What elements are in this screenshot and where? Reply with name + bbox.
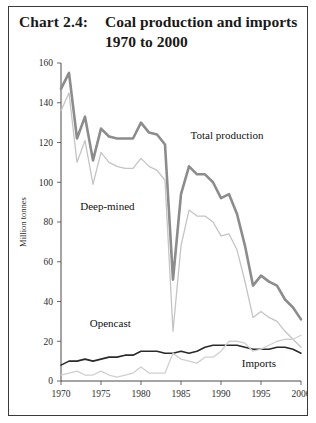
y-axis-ticks: 020406080100120140160 [39, 58, 61, 386]
x-axis-ticks: 1970197519801985199019952000 [52, 381, 309, 399]
x-tick-label: 1995 [252, 389, 271, 399]
annotation-opencast: Opencast [90, 317, 131, 329]
x-tick-label: 1975 [92, 389, 111, 399]
annotation-imports: Imports [242, 357, 276, 369]
chart-title-line-2: 1970 to 2000 [105, 33, 188, 51]
x-tick-label: 1980 [132, 389, 151, 399]
chart-title-line-1: Coal production and imports [105, 13, 297, 31]
annotation-total-production: Total production [191, 129, 264, 141]
axis-lines [61, 63, 301, 381]
x-tick-label: 1970 [52, 389, 71, 399]
line-chart-svg: 020406080100120140160 197019751980198519… [9, 55, 308, 415]
series-line-deep-mined [61, 93, 301, 347]
x-tick-label: 1985 [172, 389, 191, 399]
y-tick-label: 100 [39, 178, 54, 188]
x-tick-label: 2000 [292, 389, 309, 399]
y-tick-label: 60 [44, 257, 54, 267]
x-tick-label: 1990 [212, 389, 231, 399]
chart-card: Chart 2.4: Coal production and imports 1… [8, 6, 308, 416]
y-axis-title: Million tonnes [18, 197, 28, 247]
y-tick-label: 0 [48, 376, 53, 386]
y-tick-label: 120 [39, 138, 54, 148]
y-tick-label: 160 [39, 58, 54, 68]
y-tick-label: 40 [44, 297, 54, 307]
data-series-group [61, 73, 301, 377]
y-tick-label: 140 [39, 98, 54, 108]
y-tick-label: 80 [44, 217, 54, 227]
chart-number-label: Chart 2.4: [19, 13, 88, 31]
annotation-deep-mined: Deep-mined [80, 200, 135, 212]
series-line-total-production [61, 73, 301, 319]
y-tick-label: 20 [44, 337, 54, 347]
chart-title-block: Chart 2.4: Coal production and imports 1… [9, 11, 308, 57]
y-axis-title-group: Million tonnes [18, 197, 28, 247]
plot-area: 020406080100120140160 197019751980198519… [9, 55, 308, 415]
